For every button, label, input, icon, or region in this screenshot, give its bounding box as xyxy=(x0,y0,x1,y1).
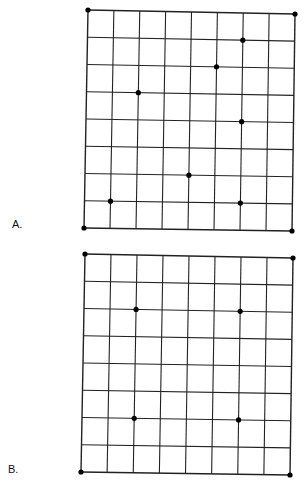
grid-dot xyxy=(78,469,83,474)
grid-figure-b xyxy=(78,251,295,477)
grid-dot xyxy=(108,199,113,204)
grid-dot xyxy=(132,416,137,421)
grid-dot xyxy=(292,11,297,16)
grid-dot xyxy=(289,228,294,233)
grid-dot xyxy=(238,309,243,314)
grid-dot xyxy=(85,7,90,12)
grid-dot xyxy=(238,200,243,205)
grid-dot xyxy=(287,472,292,477)
grid-dot xyxy=(214,64,219,69)
grid-dot xyxy=(290,255,295,260)
grid-dot xyxy=(239,119,244,124)
grid-dot xyxy=(240,38,245,43)
grid-dot xyxy=(82,251,87,256)
grid-dot xyxy=(81,225,86,230)
grid-dot xyxy=(236,417,241,422)
grid-dot xyxy=(133,307,138,312)
grid-figure-a xyxy=(81,7,297,233)
grid-figures xyxy=(0,0,304,483)
grid-dot xyxy=(186,173,191,178)
grid-dot xyxy=(136,90,141,95)
